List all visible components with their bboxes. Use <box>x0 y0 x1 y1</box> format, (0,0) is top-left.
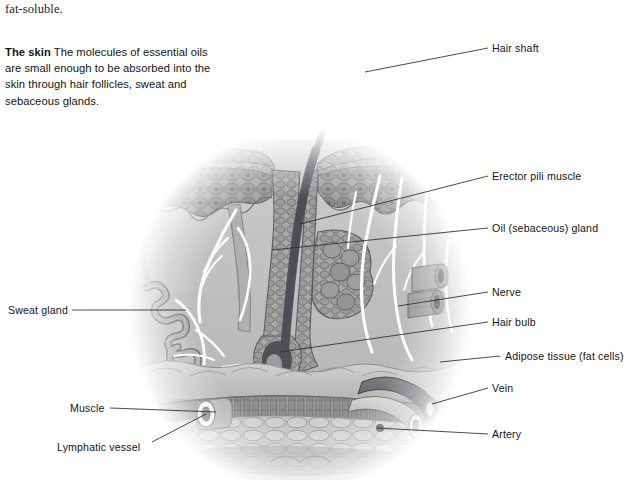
label-hair-shaft: Hair shaft <box>492 42 539 54</box>
lymphatic-vessel <box>197 398 232 430</box>
label-erector-pili-muscle: Erector pili muscle <box>492 170 581 182</box>
label-oil-sebaceous-gland: Oil (sebaceous) gland <box>492 222 598 234</box>
label-sweat-gland: Sweat gland <box>8 304 68 316</box>
label-vein: Vein <box>492 382 513 394</box>
label-lymphatic-vessel: Lymphatic vessel <box>57 441 140 453</box>
label-muscle: Muscle <box>70 402 104 414</box>
figure-page: fat-soluble. The skin The molecules of e… <box>0 0 630 487</box>
label-nerve: Nerve <box>492 286 521 298</box>
artwork-body <box>118 8 486 480</box>
label-adipose-tissue: Adipose tissue (fat cells) <box>505 350 624 362</box>
leader-hair-shaft <box>365 48 488 72</box>
label-artery: Artery <box>492 428 521 440</box>
label-hair-bulb: Hair bulb <box>492 316 536 328</box>
